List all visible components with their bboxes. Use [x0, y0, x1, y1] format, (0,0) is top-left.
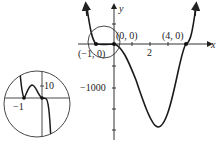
- polynomial-graph: y x 2 −1000 (−1, 0) (0, 0) (4, 0) −1 10: [0, 0, 219, 149]
- point-origin: [112, 42, 116, 46]
- polynomial-curve: [87, 6, 196, 127]
- y-axis-label: y: [118, 3, 124, 14]
- y-tick-label-neg1000: −1000: [80, 82, 106, 93]
- inset-y-tick-label: 10: [44, 80, 54, 91]
- point-label-origin: (0, 0): [116, 30, 138, 42]
- point-4-0: [184, 42, 188, 46]
- point-label-4-0: (4, 0): [162, 30, 184, 42]
- x-tick-label-2: 2: [147, 47, 152, 58]
- inset-zoom: −1 10: [2, 70, 72, 140]
- point-neg1-0: [94, 42, 98, 46]
- inset-x-tick-label: −1: [13, 101, 24, 112]
- point-label-neg1-0: (−1, 0): [78, 48, 105, 60]
- main-axes: [78, 6, 210, 140]
- x-axis-label: x: [210, 39, 216, 50]
